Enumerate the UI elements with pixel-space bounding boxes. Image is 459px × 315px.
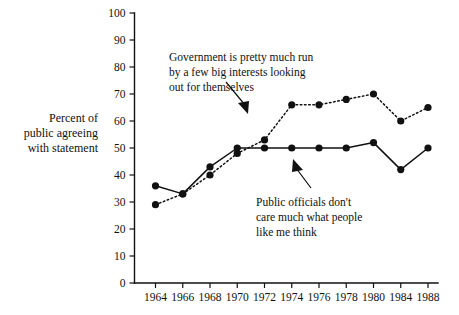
- annotation-line: by a few big interests looking: [169, 66, 306, 79]
- y-tick-label: 30: [114, 196, 126, 208]
- data-point: [288, 101, 295, 108]
- series-markers: [152, 90, 432, 208]
- x-tick-label: 1964: [144, 291, 167, 303]
- annotation-line: out for themselves: [169, 81, 254, 93]
- x-tick-label: 1976: [308, 291, 331, 303]
- y-tick-label: 60: [114, 115, 126, 127]
- data-point: [343, 144, 350, 151]
- x-tick-label: 1980: [362, 291, 385, 303]
- y-tick-label: 90: [114, 34, 126, 46]
- annotation-public-officials: Public officials don'tcare much what peo…: [256, 196, 362, 238]
- data-point: [424, 144, 431, 151]
- x-tick-label: 1978: [335, 291, 358, 303]
- data-point: [397, 166, 404, 173]
- y-tick-label: 40: [114, 169, 126, 181]
- data-point: [206, 163, 213, 170]
- annotation-big-interests: Government is pretty much runby a few bi…: [169, 51, 314, 93]
- data-point: [152, 201, 159, 208]
- y-tick-label: 0: [120, 277, 126, 289]
- x-tick-label: 1972: [253, 291, 276, 303]
- annotation-line: like me think: [256, 226, 317, 238]
- annotation-public-officials-leader: [292, 159, 311, 188]
- data-point: [370, 90, 377, 97]
- annotation-line: Government is pretty much run: [169, 51, 314, 64]
- x-axis-tick-labels: 1964196619681970197219741976197819801984…: [144, 291, 440, 303]
- y-tick-label: 10: [114, 250, 126, 262]
- x-tick-label: 1988: [417, 291, 440, 303]
- annotation-line: Public officials don't: [256, 196, 352, 208]
- data-point: [261, 144, 268, 151]
- data-point: [288, 144, 295, 151]
- data-point: [152, 182, 159, 189]
- chart-container: 0102030405060708090100 19641966196819701…: [0, 0, 459, 315]
- y-tick-label: 50: [114, 142, 126, 154]
- y-tick-label: 100: [108, 7, 126, 19]
- data-point: [315, 144, 322, 151]
- y-tick-label: 20: [114, 223, 126, 235]
- data-point: [397, 117, 404, 124]
- y-tick-label: 70: [114, 88, 126, 100]
- annotation-line: care much what people: [256, 211, 362, 224]
- y-axis-title-line: public agreeing: [24, 126, 98, 140]
- data-point: [343, 96, 350, 103]
- x-axis-ticks: [156, 283, 429, 288]
- x-tick-label: 1968: [199, 291, 222, 303]
- y-axis-tick-labels: 0102030405060708090100: [108, 7, 126, 289]
- data-point: [234, 144, 241, 151]
- y-axis-title: Percent ofpublic agreeingwith statement: [24, 111, 99, 155]
- data-point: [370, 139, 377, 146]
- x-tick-label: 1970: [226, 291, 249, 303]
- x-tick-label: 1966: [171, 291, 194, 303]
- data-point: [179, 190, 186, 197]
- y-tick-label: 80: [114, 61, 126, 73]
- y-axis-title-line: with statement: [28, 141, 99, 155]
- data-point: [206, 171, 213, 178]
- line-chart: 0102030405060708090100 19641966196819701…: [0, 0, 459, 315]
- y-axis-title-line: Percent of: [49, 111, 98, 125]
- x-tick-label: 1974: [280, 291, 303, 303]
- x-tick-label: 1984: [389, 291, 412, 303]
- y-axis-ticks: [130, 13, 135, 283]
- data-point: [315, 101, 322, 108]
- data-point: [424, 104, 431, 111]
- data-point: [261, 136, 268, 143]
